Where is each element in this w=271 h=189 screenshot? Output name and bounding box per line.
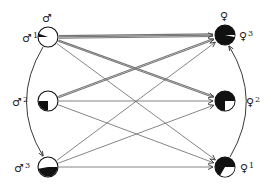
mating-diagram: ♂♂1♂2♂3♀♀3♀2♀1 xyxy=(0,0,271,189)
label-male-3: ♂3 xyxy=(14,161,30,175)
label-male-2: ♂2 xyxy=(12,95,28,109)
label-female-1: ♀1 xyxy=(240,161,254,175)
label-male-1: ♂1 xyxy=(22,31,38,45)
pie-node-m2 xyxy=(38,91,58,111)
pie-slice xyxy=(225,101,235,111)
pie-node-f3 xyxy=(215,25,235,45)
pie-slice xyxy=(38,101,48,111)
female-header-label: ♀ xyxy=(220,10,228,23)
male-header-label: ♂ xyxy=(42,12,52,25)
label-female-3: ♀3 xyxy=(239,29,253,43)
edges xyxy=(57,33,216,170)
pie-node-m3 xyxy=(38,157,58,177)
label-female-2: ♀2 xyxy=(246,95,260,109)
pie-node-f1 xyxy=(215,157,235,177)
pie-node-f2 xyxy=(215,91,235,111)
pie-node-m1 xyxy=(38,27,58,47)
